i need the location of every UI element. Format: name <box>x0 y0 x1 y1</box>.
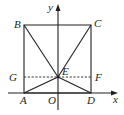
label-x: x <box>112 93 118 105</box>
label-f: F <box>94 71 102 83</box>
label-e: E <box>61 65 69 77</box>
segment-be <box>24 25 58 77</box>
segment-de <box>58 77 91 93</box>
point-e-dot <box>57 76 60 79</box>
label-d: D <box>86 94 95 106</box>
label-o: O <box>48 94 56 106</box>
label-b: B <box>14 18 21 30</box>
segment-ae <box>24 77 58 93</box>
label-c: C <box>94 17 102 29</box>
label-a: A <box>19 94 27 106</box>
geometry-diagram: y x O B C G F E A D <box>0 0 124 115</box>
y-axis-arrow-icon <box>56 4 61 11</box>
label-g: G <box>9 71 17 83</box>
label-y: y <box>47 1 53 13</box>
